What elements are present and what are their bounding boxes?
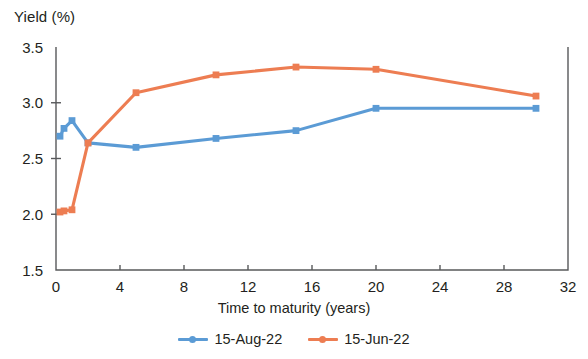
svg-text:28: 28 — [496, 278, 513, 295]
data-point-marker — [533, 105, 540, 112]
chart-legend: 15-Aug-22 15-Jun-22 — [0, 331, 588, 347]
data-point-marker — [69, 206, 76, 213]
data-point-marker — [85, 139, 92, 146]
legend-swatch-series-0 — [178, 333, 208, 345]
svg-text:8: 8 — [180, 278, 188, 295]
data-point-marker — [213, 135, 220, 142]
svg-text:3.5: 3.5 — [22, 39, 43, 56]
legend-item-0[interactable]: 15-Aug-22 — [178, 331, 282, 347]
yield-curve-chart: Yield (%) 1.52.02.53.03.5 04812162024283… — [0, 0, 588, 359]
data-point-marker — [61, 208, 68, 215]
tick-marks — [51, 103, 504, 270]
legend-label-1: 15-Jun-22 — [344, 331, 409, 347]
svg-text:4: 4 — [116, 278, 124, 295]
legend-label-0: 15-Aug-22 — [214, 331, 282, 347]
series-layer — [57, 64, 540, 216]
svg-text:2.5: 2.5 — [22, 150, 43, 167]
data-point-marker — [213, 71, 220, 78]
legend-swatch-series-1 — [308, 333, 338, 345]
svg-text:3.0: 3.0 — [22, 94, 43, 111]
data-point-marker — [69, 117, 76, 124]
x-tick-label-group: 048121620242832 — [52, 278, 577, 295]
data-point-marker — [373, 105, 380, 112]
data-point-marker — [57, 133, 64, 140]
series-1 — [57, 64, 540, 216]
data-point-marker — [133, 144, 140, 151]
svg-text:12: 12 — [240, 278, 257, 295]
data-point-marker — [293, 64, 300, 71]
svg-text:24: 24 — [432, 278, 449, 295]
data-point-marker — [61, 125, 68, 132]
svg-text:0: 0 — [52, 278, 60, 295]
data-point-marker — [533, 93, 540, 100]
y-tick-label-group: 1.52.02.53.03.5 — [22, 39, 43, 279]
svg-text:20: 20 — [368, 278, 385, 295]
series-0 — [57, 105, 540, 151]
svg-text:2.0: 2.0 — [22, 206, 43, 223]
legend-marker-icon — [319, 336, 326, 343]
svg-text:1.5: 1.5 — [22, 262, 43, 279]
svg-text:16: 16 — [304, 278, 321, 295]
data-point-marker — [293, 127, 300, 134]
x-axis-title: Time to maturity (years) — [0, 300, 588, 316]
data-point-marker — [373, 66, 380, 73]
axis-lines — [56, 47, 568, 270]
legend-marker-icon — [189, 336, 196, 343]
legend-item-1[interactable]: 15-Jun-22 — [308, 331, 409, 347]
data-point-marker — [133, 89, 140, 96]
svg-text:32: 32 — [560, 278, 577, 295]
